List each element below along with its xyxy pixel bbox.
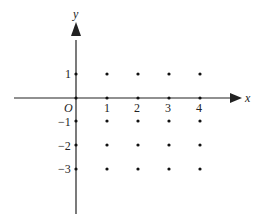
lattice-point [198,167,201,170]
lattice-point [74,72,77,75]
lattice-point [105,143,108,146]
lattice-point [167,143,170,146]
lattice-point [136,143,139,146]
x-tick-label: 1 [104,101,110,115]
x-axis-label: x [244,91,251,105]
y-tick-label: −3 [58,162,71,176]
lattice-point [167,119,170,122]
lattice-point [136,72,139,75]
lattice-point [105,119,108,122]
lattice-point [136,96,139,99]
x-axis-arrow-icon [230,93,242,103]
lattice-point [74,143,77,146]
lattice-point [198,96,201,99]
lattice-point [74,119,77,122]
lattice-point [198,119,201,122]
coordinate-plane: x y O 1 2 3 4 1 −1 −2 −3 [0,0,263,224]
lattice-point [136,167,139,170]
lattice-point [167,167,170,170]
x-tick-label: 4 [196,101,202,115]
lattice-point [105,167,108,170]
y-tick-label: −1 [58,115,71,129]
lattice-point [74,96,77,99]
lattice-point [167,96,170,99]
lattice-point [136,119,139,122]
origin-label: O [64,101,73,115]
lattice-point [105,96,108,99]
x-tick-label: 2 [134,101,140,115]
lattice-point [105,72,108,75]
lattice-point [198,72,201,75]
lattice-points [74,72,201,170]
y-tick-label: −2 [58,139,71,153]
lattice-point [167,72,170,75]
y-axis-label: y [72,7,79,21]
y-axis-arrow-icon [71,22,81,36]
lattice-point [74,167,77,170]
y-tick-label: 1 [65,67,71,81]
x-tick-label: 3 [165,101,171,115]
lattice-point [198,143,201,146]
